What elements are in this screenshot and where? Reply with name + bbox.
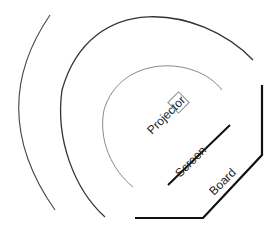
screen-label: Screen [172, 143, 209, 180]
outer-arc [19, 15, 55, 210]
room-diagram: Projector Screen Board [0, 0, 275, 235]
board-label: Board [206, 166, 239, 199]
projector-label: Projector [144, 93, 188, 137]
